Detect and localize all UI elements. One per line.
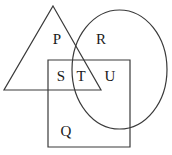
region-label-s: S: [57, 68, 65, 84]
venn-diagram-canvas: P R S T U Q: [0, 0, 172, 155]
region-label-p: P: [53, 31, 61, 47]
region-label-r: R: [96, 31, 106, 47]
triangle-shape: [4, 6, 101, 90]
ellipse-shape: [72, 10, 167, 129]
region-label-u: U: [105, 68, 116, 84]
region-label-t: T: [76, 68, 85, 84]
venn-diagram-container: P R S T U Q: [0, 0, 172, 155]
region-label-q: Q: [61, 123, 72, 139]
